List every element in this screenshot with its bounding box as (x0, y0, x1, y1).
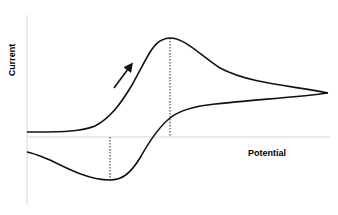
forward-scan-curve (27, 38, 328, 132)
y-axis-label-container: Current (2, 50, 22, 70)
scan-direction-arrow-icon (114, 65, 131, 88)
chart-plot-area (0, 0, 338, 215)
y-axis-label: Current (7, 44, 17, 77)
cyclic-voltammogram-chart: Current Potential (0, 0, 338, 215)
x-axis-label: Potential (248, 148, 286, 158)
